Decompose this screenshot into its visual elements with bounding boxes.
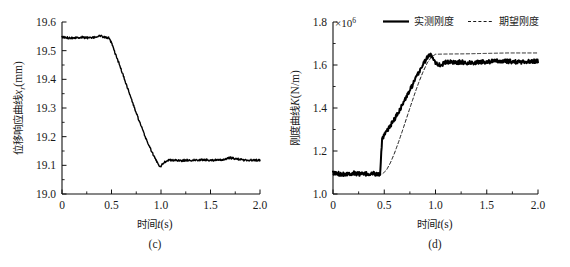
chart-c-svg: 19.019.119.219.319.419.519.600.51.01.52.… bbox=[0, 0, 285, 267]
y-tick-label: 19.5 bbox=[36, 45, 56, 57]
chart-c-xlabel: 时间t(s) bbox=[137, 218, 173, 231]
panel-d: 1.01.21.41.61.800.51.01.52.0 ×106 实测刚度期望… bbox=[285, 0, 570, 267]
x-tick-label: 2.0 bbox=[253, 199, 268, 211]
y-tick-label: 19.3 bbox=[36, 102, 56, 114]
x-tick-label: 0.5 bbox=[377, 199, 392, 211]
svg-text:位移响应曲线xr(mm): 位移响应曲线xr(mm) bbox=[12, 61, 27, 155]
x-tick-label: 0 bbox=[59, 199, 65, 211]
caption-d: (d) bbox=[428, 238, 442, 251]
chart-c-series bbox=[62, 35, 260, 166]
xlabel-c-unit: (s) bbox=[161, 218, 173, 231]
series-line-2 bbox=[333, 53, 538, 175]
y-tick-label: 19.2 bbox=[36, 131, 56, 143]
xlabel-d-unit: (s) bbox=[441, 218, 453, 231]
ylabel-d-cjk: 刚度曲线 bbox=[289, 105, 301, 146]
chart-d-series bbox=[333, 53, 538, 176]
figure-container: 19.019.119.219.319.419.519.600.51.01.52.… bbox=[0, 0, 570, 267]
ylabel-c-cjk: 位移响应曲线 bbox=[12, 94, 24, 155]
y-tick-label: 19.0 bbox=[36, 188, 56, 200]
x-tick-label: 1.5 bbox=[203, 199, 218, 211]
chart-d-svg: 1.01.21.41.61.800.51.01.52.0 ×106 实测刚度期望… bbox=[285, 0, 570, 267]
x-tick-label: 1.0 bbox=[154, 199, 169, 211]
chart-d-legend: 实测刚度期望刚度 bbox=[383, 15, 539, 27]
chart-d-axes: 1.01.21.41.61.800.51.01.52.0 bbox=[313, 16, 546, 211]
legend-label-2: 期望刚度 bbox=[499, 15, 539, 27]
exp-base: 10 bbox=[341, 17, 353, 29]
x-tick-label: 0.5 bbox=[104, 199, 119, 211]
y-tick-label: 19.4 bbox=[36, 73, 56, 85]
y-tick-label: 1.2 bbox=[313, 145, 328, 157]
series-line-1 bbox=[62, 35, 260, 166]
svg-text:×106: ×106 bbox=[335, 16, 356, 29]
chart-c-axes: 19.019.119.219.319.419.519.600.51.01.52.… bbox=[36, 16, 268, 211]
panel-c: 19.019.119.219.319.419.519.600.51.01.52.… bbox=[0, 0, 285, 267]
y-tick-label: 19.1 bbox=[36, 159, 56, 171]
x-tick-label: 0 bbox=[330, 199, 336, 211]
svg-text:刚度曲线K(N/m): 刚度曲线K(N/m) bbox=[289, 70, 302, 146]
ylabel-c-unit: (mm) bbox=[12, 61, 25, 87]
caption-c: (c) bbox=[149, 238, 162, 251]
chart-c-ylabel: 位移响应曲线xr(mm) bbox=[12, 61, 27, 155]
xlabel-d-cjk: 时间 bbox=[417, 218, 437, 230]
x-tick-label: 1.0 bbox=[428, 199, 443, 211]
exp-power: 6 bbox=[352, 16, 356, 25]
y-tick-label: 1.8 bbox=[313, 16, 328, 28]
chart-d-xlabel: 时间t(s) bbox=[417, 218, 453, 231]
series-line-1 bbox=[333, 54, 538, 176]
svg-text:时间t(s): 时间t(s) bbox=[137, 218, 173, 231]
xlabel-c-cjk: 时间 bbox=[137, 218, 157, 230]
y-tick-label: 1.0 bbox=[313, 188, 328, 200]
svg-text:时间t(s): 时间t(s) bbox=[417, 218, 453, 231]
ylabel-d-unit: (N/m) bbox=[289, 70, 302, 98]
legend-label-1: 实测刚度 bbox=[414, 15, 454, 27]
x-tick-label: 2.0 bbox=[531, 199, 546, 211]
y-tick-label: 1.4 bbox=[313, 102, 328, 114]
chart-d-exponent: ×106 bbox=[335, 16, 356, 29]
x-tick-label: 1.5 bbox=[480, 199, 495, 211]
chart-d-ylabel: 刚度曲线K(N/m) bbox=[289, 70, 302, 146]
y-tick-label: 1.6 bbox=[313, 59, 328, 71]
y-tick-label: 19.6 bbox=[36, 16, 56, 28]
